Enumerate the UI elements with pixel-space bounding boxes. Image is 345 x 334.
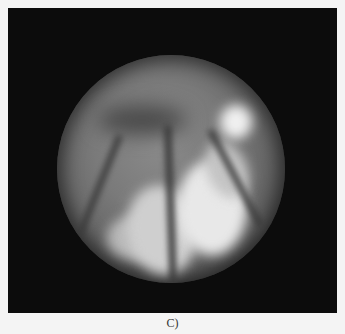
endoscopic-view bbox=[57, 55, 285, 283]
tissue-highlight bbox=[220, 105, 252, 139]
shadow-region bbox=[97, 105, 187, 135]
figure-caption: C) bbox=[0, 313, 345, 333]
